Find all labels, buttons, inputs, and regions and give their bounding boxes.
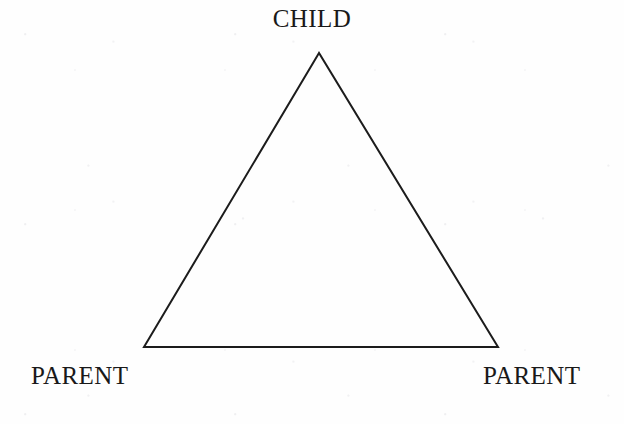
vertex-label-parent-left: PARENT [31, 363, 128, 388]
triangle-outline [144, 53, 498, 347]
diagram-canvas: CHILD PARENT PARENT [0, 0, 624, 424]
vertex-label-child: CHILD [0, 6, 624, 31]
triangle-shape [0, 0, 624, 424]
vertex-label-parent-right: PARENT [483, 363, 580, 388]
